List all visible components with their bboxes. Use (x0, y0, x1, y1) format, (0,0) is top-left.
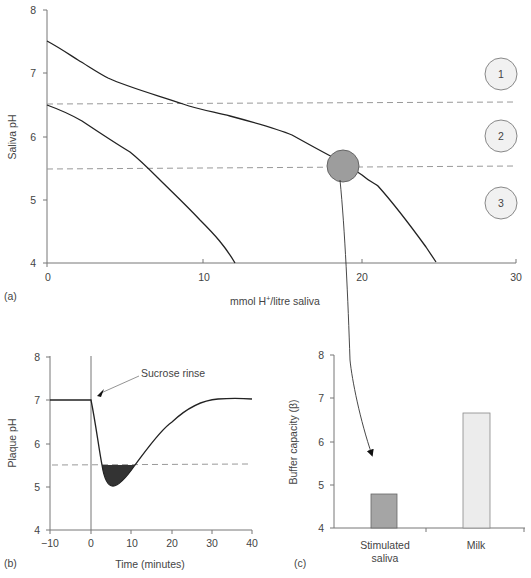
c-bar-milk (463, 413, 490, 528)
a-panel-label: (a) (4, 290, 17, 302)
a-ytick-7: 7 (30, 67, 36, 79)
b-ref-line-5-5 (52, 464, 248, 465)
zone-marker-1: 1 (485, 58, 517, 90)
a-ytick-8: 8 (30, 4, 36, 16)
figure: 8 7 6 5 4 0 10 20 30 Saliva pH mmol H+/l… (0, 0, 531, 578)
c-ytick-4: 4 (318, 522, 324, 534)
b-annotation-sucrose-rinse: Sucrose rinse (141, 367, 205, 379)
b-annotation-arrowhead (97, 389, 104, 397)
b-xtick-30: 30 (206, 537, 218, 549)
zone-marker-3: 3 (485, 187, 517, 219)
b-ytick-7: 7 (34, 394, 40, 406)
a-y-label: Saliva pH (6, 115, 18, 160)
c-ytick-8: 8 (318, 349, 324, 361)
c-bar-stimulated-saliva (371, 494, 397, 528)
svg-text:1: 1 (498, 68, 504, 80)
b-xtick-40: 40 (246, 537, 258, 549)
a-ytick-4: 4 (30, 257, 36, 269)
panel-a: 8 7 6 5 4 0 10 20 30 Saliva pH mmol H+/l… (4, 4, 522, 455)
b-annotation-line (101, 376, 139, 393)
c-cat-stimulated-saliva-line1: Stimulated (360, 539, 410, 551)
b-xtick-minus10: −10 (41, 537, 59, 549)
a-y-ticks: 8 7 6 5 4 (30, 4, 47, 269)
c-panel-label: (c) (294, 557, 306, 569)
a-xtick-0: 0 (45, 271, 51, 283)
b-x-label: Time (minutes) (115, 558, 185, 570)
c-cat-milk: Milk (467, 539, 486, 551)
b-xtick-0: 0 (88, 537, 94, 549)
a-lower-curve (47, 105, 235, 263)
b-ytick-8: 8 (34, 351, 40, 363)
zone-marker-2: 2 (485, 120, 517, 152)
a-ytick-5: 5 (30, 194, 36, 206)
a-ref-line-6-5 (47, 102, 517, 104)
svg-text:2: 2 (498, 130, 504, 142)
a-x-label: mmol H+/litre saliva (230, 295, 320, 307)
b-ytick-4: 4 (34, 524, 40, 536)
c-ytick-7: 7 (318, 392, 324, 404)
b-y-ticks: 8 7 6 5 4 (34, 351, 50, 536)
c-ytick-5: 5 (318, 479, 324, 491)
b-xtick-10: 10 (126, 537, 138, 549)
a-to-c-arrow (340, 180, 372, 455)
a-ytick-6: 6 (30, 131, 36, 143)
a-highlight-point (327, 150, 359, 182)
b-y-label: Plaque pH (6, 418, 18, 467)
panel-c: 8 7 6 5 4 Buffer capacity (β) Stimulated… (287, 349, 525, 569)
c-ytick-6: 6 (318, 436, 324, 448)
b-ytick-5: 5 (34, 481, 40, 493)
c-y-ticks: 8 7 6 5 4 (318, 349, 524, 534)
b-plaque-ph-curve (50, 398, 252, 486)
a-xtick-10: 10 (198, 271, 210, 283)
c-y-label: Buffer capacity (β) (287, 399, 299, 484)
b-ytick-6: 6 (34, 438, 40, 450)
a-upper-curve (47, 41, 436, 262)
a-ref-line-5-5 (47, 166, 517, 169)
b-xtick-20: 20 (166, 537, 178, 549)
a-xtick-20: 20 (356, 271, 368, 283)
panel-b: 8 7 6 5 4 −10 0 10 20 30 40 Plaque pH Ti… (4, 351, 258, 570)
c-cat-stimulated-saliva-line2: saliva (372, 552, 399, 564)
b-panel-label: (b) (4, 557, 17, 569)
svg-text:3: 3 (498, 197, 504, 209)
b-x-ticks: −10 0 10 20 30 40 (41, 530, 258, 549)
a-xtick-30: 30 (510, 271, 522, 283)
